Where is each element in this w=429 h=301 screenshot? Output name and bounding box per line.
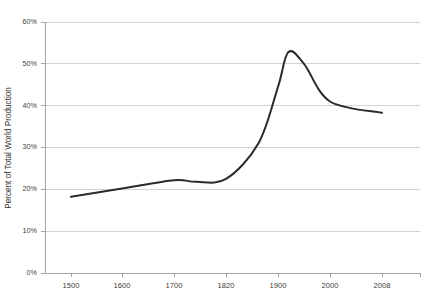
y-tick-label-20: 20%: [23, 184, 38, 193]
y-tick-label-60: 60%: [23, 17, 38, 26]
data-series-line: [71, 51, 382, 197]
x-tick-label-1820: 1820: [218, 281, 235, 290]
line-chart: 60% 50% 40% 30% 20% 10% 0% 1500 1600 170…: [0, 0, 429, 301]
x-tick-label-1700: 1700: [166, 281, 183, 290]
x-tick-label-2000: 2000: [322, 281, 339, 290]
x-tick-marks: [71, 273, 420, 277]
y-axis-title: Percent of Total World Production: [4, 87, 13, 209]
x-tick-label-1500: 1500: [63, 281, 80, 290]
y-tick-label-10: 10%: [23, 226, 38, 235]
gridlines: [45, 22, 420, 231]
x-tick-label-1600: 1600: [114, 281, 131, 290]
x-tick-label-1900: 1900: [270, 281, 287, 290]
y-tick-label-30: 30%: [23, 142, 38, 151]
x-tick-labels: 1500 1600 1700 1820 1900 2000 2008: [63, 281, 391, 290]
y-tick-label-0: 0%: [27, 268, 38, 277]
y-tick-marks: [41, 22, 45, 273]
y-tick-labels: 60% 50% 40% 30% 20% 10% 0%: [23, 17, 38, 277]
y-tick-label-40: 40%: [23, 101, 38, 110]
chart-container: 60% 50% 40% 30% 20% 10% 0% 1500 1600 170…: [0, 0, 429, 301]
y-tick-label-50: 50%: [23, 59, 38, 68]
x-tick-label-2008: 2008: [374, 281, 391, 290]
